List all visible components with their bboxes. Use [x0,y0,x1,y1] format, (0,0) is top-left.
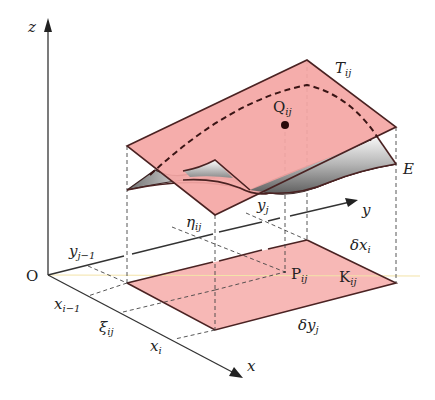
origin-label: O [26,267,38,285]
delta-y-main: δy [298,316,316,334]
x-i-sub: i [158,345,161,356]
y-axis-seg3 [219,222,262,232]
yj-label: yj [256,196,269,215]
t-sub: ij [345,67,351,78]
delta-x-sub: i [368,244,371,255]
p-sub: ij [301,273,307,284]
y-axis-label: y [361,201,371,219]
eta-main: η [186,213,195,231]
eta-sub: ij [195,221,201,232]
y-axis-seg2 [132,234,213,254]
delta-x-main: δx [350,236,368,254]
xi1-sub: i−1 [62,303,80,314]
k-sub: ij [350,276,356,287]
xi-label: ξij [99,318,114,337]
delta-x-label: δxi [350,236,371,255]
xi-sub: ij [107,326,113,337]
y-axis-seg5 [290,202,350,216]
t-label: Tij [335,59,351,78]
e-label: E [402,160,414,178]
z-axis-arrow-icon [44,18,52,32]
x-axis-label: x [247,357,256,375]
y-axis-arrow-icon [345,198,358,207]
point-p [284,271,286,273]
x-i-label: xi [150,337,162,356]
delta-y-label: δyj [298,316,319,335]
z-axis-label: z [27,18,36,36]
k-main: K [339,268,351,286]
q-sub: ij [285,106,291,117]
yj1-sub: j−1 [75,250,95,261]
surface-integral-diagram: z y x O Tij Qij E ηij yj yj−1 xi−1 ξij x… [0,0,435,400]
y-axis-seg4 [268,218,280,221]
x-axis-arrow-icon [229,367,243,378]
p-main: P [291,265,301,283]
q-main: Q [273,98,285,116]
yj1-label: yj−1 [68,242,95,261]
point-q [281,121,289,129]
xi1-label: xi−1 [54,295,80,314]
eta-label: ηij [186,213,201,232]
